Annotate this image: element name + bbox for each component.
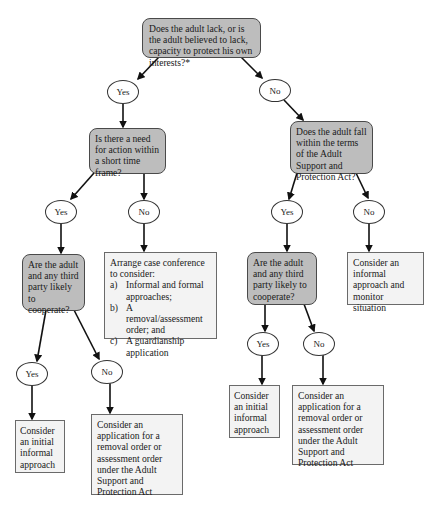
case-conference-item-c: c) A guardianship application [110,335,211,357]
no-short-time: No [128,200,160,224]
action-application-left: Consider an application for a removal or… [91,414,183,495]
item-text: A removal/assessment order; and [126,302,211,336]
item-marker: c) [110,335,126,357]
case-conference-intro: Arrange case conference to consider: [110,257,211,279]
no-capacity: No [259,79,291,102]
no-label: No [364,207,375,217]
action-application-left-text: Consider an application for a removal or… [97,419,162,497]
decision-asp-act-text: Does the adult fall within the terms of … [296,126,367,182]
no-label: No [270,86,281,96]
yes-label: Yes [54,207,67,217]
yes-asp-act: Yes [271,200,303,224]
action-informal-monitor: Consider an informal approach and monito… [347,252,424,305]
decision-cooperate-left: Are the adult and any third party likely… [22,254,85,311]
no-label: No [314,339,325,349]
action-initial-informal-right: Consider an initial informal approach [229,385,280,438]
action-case-conference: Arrange case conference to consider: a) … [104,252,217,339]
item-text: A guardianship application [126,335,211,357]
no-asp-act: No [353,200,385,224]
action-initial-informal-right-text: Consider an initial informal approach [234,390,269,435]
no-cooperate-left: No [91,360,123,384]
no-label: No [139,207,150,217]
action-informal-monitor-text: Consider an informal approach and monito… [353,257,404,313]
yes-cooperate-left: Yes [16,362,48,386]
action-initial-informal-left-text: Consider an initial informal approach [20,425,55,470]
action-application-right: Consider an application for a removal or… [292,385,384,465]
item-text: Informal and formal approaches; [126,279,211,301]
decision-cooperate-right-text: Are the adult and any third party likely… [253,257,307,302]
case-conference-item-b: b) A removal/assessment order; and [110,302,211,336]
yes-label: Yes [280,207,293,217]
yes-label: Yes [25,369,38,379]
decision-capacity: Does the adult lack, or is the adult bel… [142,18,261,58]
item-marker: a) [110,279,126,301]
action-application-right-text: Consider an application for a removal or… [298,390,363,468]
yes-capacity: Yes [107,80,139,104]
no-cooperate-right: No [303,332,335,356]
decision-cooperate-left-text: Are the adult and any third party likely… [28,259,79,315]
yes-label: Yes [116,87,129,97]
yes-cooperate-right: Yes [247,332,279,356]
case-conference-item-a: a) Informal and formal approaches; [110,279,211,301]
item-marker: b) [110,302,126,336]
decision-asp-act: Does the adult fall within the terms of … [290,121,373,174]
no-label: No [102,367,113,377]
decision-short-time-frame: Is there a need for action within a shor… [89,128,166,174]
decision-cooperate-right: Are the adult and any third party likely… [247,252,317,305]
yes-short-time: Yes [45,200,77,224]
action-initial-informal-left: Consider an initial informal approach [15,420,65,473]
yes-label: Yes [256,339,269,349]
decision-short-time-frame-text: Is there a need for action within a shor… [95,133,159,178]
